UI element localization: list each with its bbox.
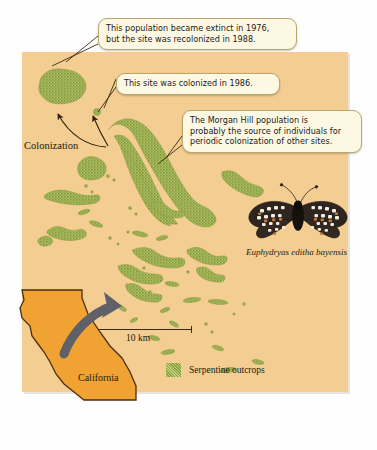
species-label: Euphydryas editha bayensis	[246, 247, 347, 257]
callout-line: probably the source of individuals for	[190, 126, 354, 137]
legend-swatch-serpentine	[166, 363, 181, 377]
callout-line: periodic colonization of other sites.	[190, 136, 354, 147]
callout-line: but the site was recolonized in 1988.	[106, 34, 289, 45]
scale-bar-cap-right	[191, 326, 192, 333]
legend-label-serpentine: Serpentine outcrops	[189, 365, 265, 375]
callout-colonized-1986[interactable]: This site was colonized in 1986.	[116, 73, 280, 95]
california-label: California	[78, 372, 119, 383]
callout-extinct-recolonized[interactable]: This population became extinct in 1976, …	[98, 18, 297, 50]
callout-line: This site was colonized in 1986.	[124, 78, 272, 89]
callout-morgan-hill-source[interactable]: The Morgan Hill population is probably t…	[182, 110, 362, 153]
california-inset	[18, 288, 153, 410]
callout-line: The Morgan Hill population is	[190, 115, 354, 126]
butterfly-illustration	[246, 182, 350, 244]
figure-canvas: This population became extinct in 1976, …	[0, 0, 377, 450]
callout-line: This population became extinct in 1976,	[106, 23, 289, 34]
colonization-label: Colonization	[24, 140, 78, 151]
inset-zoom-arrow	[18, 288, 153, 410]
